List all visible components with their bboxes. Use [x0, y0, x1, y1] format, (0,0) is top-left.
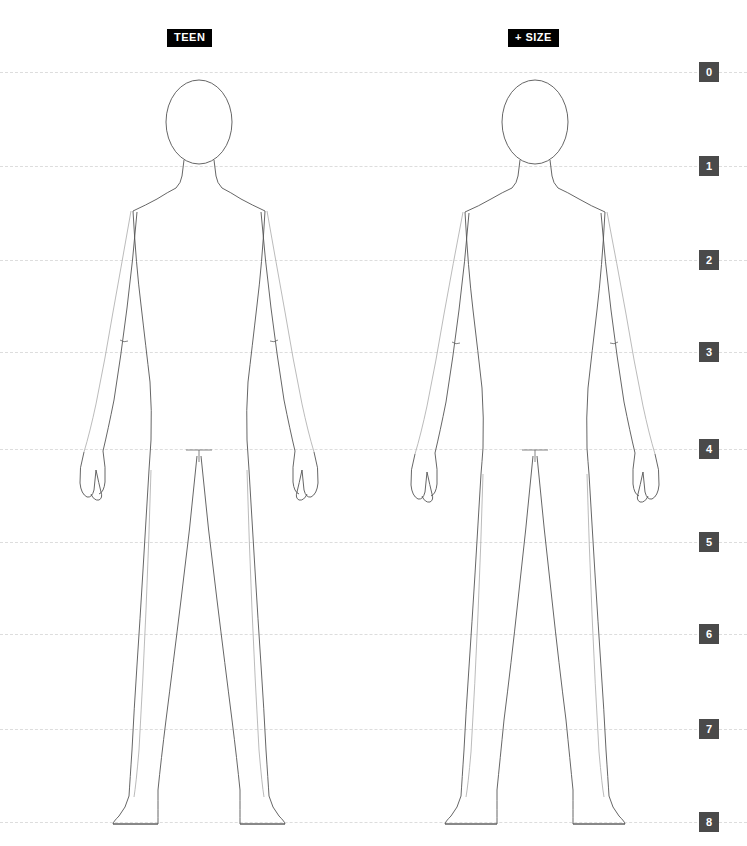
- teen-foot-right: [240, 790, 285, 824]
- gridline-5: [0, 542, 747, 543]
- marker-6: 6: [699, 624, 719, 644]
- plus-head: [502, 80, 568, 164]
- plus-hand-left: [411, 453, 437, 502]
- plus-hand-right: [633, 453, 659, 502]
- teen-shoulder-right: [222, 188, 265, 211]
- plus-shoulder-right: [558, 188, 605, 212]
- teen-leg-right-outer: [249, 470, 269, 796]
- gridline-4: [0, 449, 747, 450]
- teen-arm-left-inner: [103, 212, 137, 451]
- plus-torso-right: [587, 212, 605, 474]
- gridline-1: [0, 166, 747, 167]
- marker-2: 2: [699, 250, 719, 270]
- badge-teen: TEEN: [167, 29, 212, 47]
- teen-arm-right-outer: [267, 211, 314, 452]
- plus-leg-left-inner: [497, 456, 533, 790]
- teen-foot-left: [113, 790, 158, 824]
- teen-figure: [80, 80, 318, 824]
- gridline-0: [0, 72, 747, 73]
- plus-size-figure: [411, 80, 659, 824]
- teen-torso-left: [133, 211, 151, 470]
- plus-leg-right-inner: [537, 456, 573, 790]
- teen-leg-left-outer: [129, 470, 149, 796]
- plus-arm-left-inner: [435, 213, 469, 453]
- marker-4: 4: [699, 439, 719, 459]
- plus-crotch-mark: [522, 450, 548, 462]
- gridline-6: [0, 634, 747, 635]
- plus-foot-left: [445, 790, 497, 824]
- plus-arm-left-outer: [415, 212, 463, 454]
- marker-1: 1: [699, 156, 719, 176]
- gridline-3: [0, 352, 747, 353]
- teen-hand-left: [80, 451, 105, 500]
- teen-head: [166, 80, 232, 164]
- plus-leg-left-outer: [461, 474, 481, 796]
- plus-shoulder-left: [465, 188, 512, 212]
- marker-7: 7: [699, 719, 719, 739]
- marker-3: 3: [699, 342, 719, 362]
- plus-torso-left: [465, 212, 483, 474]
- figures-drawing: [0, 0, 747, 846]
- marker-8: 8: [699, 812, 719, 832]
- plus-neck: [512, 160, 520, 188]
- teen-arm-left-outer: [84, 211, 131, 452]
- teen-crotch-mark: [186, 450, 212, 462]
- teen-leg-left-inner: [158, 456, 197, 790]
- plus-foot-right: [573, 790, 625, 824]
- marker-0: 0: [699, 62, 719, 82]
- plus-leg-right-outer: [589, 474, 609, 796]
- teen-hand-right: [293, 451, 318, 500]
- teen-leg-right-inner: [201, 456, 240, 790]
- gridline-7: [0, 729, 747, 730]
- gridline-2: [0, 260, 747, 261]
- marker-5: 5: [699, 532, 719, 552]
- teen-shoulder-left: [133, 188, 176, 211]
- badge-plus-size: + SIZE: [508, 29, 559, 47]
- teen-arm-right-inner: [261, 212, 295, 451]
- plus-arm-right-inner: [601, 213, 635, 453]
- croquis-canvas: TEEN + SIZE 0 1 2 3 4 5 6 7 8: [0, 0, 747, 846]
- teen-torso-right: [247, 211, 265, 470]
- plus-arm-right-outer: [607, 212, 655, 454]
- teen-neck: [176, 160, 184, 188]
- gridline-8: [0, 822, 747, 823]
